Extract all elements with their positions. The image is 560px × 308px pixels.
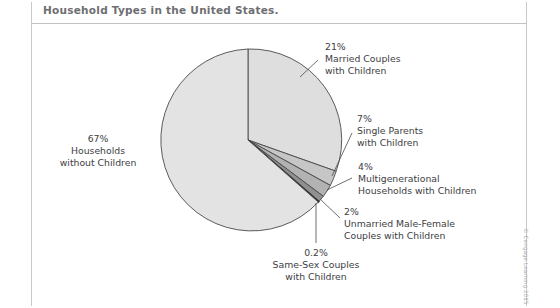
label-households-without-children-line2: without Children <box>43 157 153 169</box>
label-unmarried-male-female-pct: 2% <box>344 206 455 218</box>
label-households-without-children-line1: Households <box>43 145 153 157</box>
copyright-text: Cengage Learning 2015 <box>523 236 529 305</box>
label-multigenerational-pct: 4% <box>358 161 476 173</box>
copyright-notice: © Cengage Learning 2015 <box>523 228 529 298</box>
label-married-couples-line2: with Children <box>325 65 400 77</box>
label-unmarried-male-female-line1: Unmarried Male-Female <box>344 218 455 230</box>
label-households-without-children-pct: 67% <box>43 133 153 145</box>
label-same-sex-couples-line2: with Children <box>256 271 376 283</box>
label-single-parents: 7% Single Parents with Children <box>357 113 423 150</box>
label-unmarried-male-female: 2% Unmarried Male-Female Couples with Ch… <box>344 206 455 243</box>
label-single-parents-pct: 7% <box>357 113 423 125</box>
label-same-sex-couples: 0.2% Same-Sex Couples with Children <box>256 247 376 284</box>
label-married-couples-line1: Married Couples <box>325 53 400 65</box>
label-multigenerational-line1: Multigenerational <box>358 173 476 185</box>
label-households-without-children: 67% Households without Children <box>43 133 153 170</box>
leader-line-unmarried-male-female <box>320 199 340 218</box>
label-multigenerational: 4% Multigenerational Households with Chi… <box>358 161 476 198</box>
label-same-sex-couples-line1: Same-Sex Couples <box>256 259 376 271</box>
label-single-parents-line2: with Children <box>357 137 423 149</box>
figure-container: Household Types in the United States. 21… <box>0 0 560 308</box>
copyright-symbol: © <box>523 228 529 234</box>
label-married-couples: 21% Married Couples with Children <box>325 41 400 78</box>
label-same-sex-couples-pct: 0.2% <box>256 247 376 259</box>
label-married-couples-pct: 21% <box>325 41 400 53</box>
label-single-parents-line1: Single Parents <box>357 125 423 137</box>
label-unmarried-male-female-line2: Couples with Children <box>344 230 455 242</box>
label-multigenerational-line2: Households with Children <box>358 185 476 197</box>
